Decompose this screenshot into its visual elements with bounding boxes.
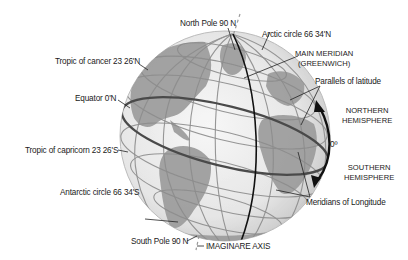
globe-graphic: [0, 0, 408, 260]
northern-hemisphere-line2: HEMISPHERE: [342, 116, 392, 126]
main-meridian-label-line1: MAIN MERIDIAN: [295, 49, 353, 59]
south-pole-label: South Pole 90 N: [131, 238, 188, 246]
antarctic-circle-label: Antarctic circle 66 34'S: [60, 189, 139, 197]
southern-hemisphere-label: SOUTHERN HEMISPHERE: [344, 163, 394, 183]
tropic-of-capricorn-label: Tropic of capricorn 23 26'S: [25, 147, 118, 155]
tropic-of-cancer-label: Tropic of cancer 23 26'N: [55, 58, 140, 66]
zero-degree-label: 0º: [330, 141, 337, 149]
globe-diagram: North Pole 90 N Arctic circle 66 34'N MA…: [0, 0, 408, 260]
north-pole-label: North Pole 90 N: [180, 20, 236, 28]
imaginary-axis-label: IMAGINARE AXIS: [206, 243, 270, 251]
parallels-of-latitude-label: Parallels of latitude: [315, 78, 381, 86]
southern-hemisphere-line2: HEMISPHERE: [344, 173, 394, 183]
arctic-circle-label: Arctic circle 66 34'N: [262, 31, 331, 39]
northern-hemisphere-line1: NORTHERN: [342, 106, 392, 116]
main-meridian-label: MAIN MERIDIAN (GREENWICH): [295, 49, 353, 69]
southern-hemisphere-line1: SOUTHERN: [344, 163, 394, 173]
meridians-of-longitude-label: Meridians of Longitude: [306, 199, 386, 207]
main-meridian-label-line2: (GREENWICH): [295, 59, 353, 69]
equator-label: Equator 0'N: [75, 95, 116, 103]
northern-hemisphere-label: NORTHERN HEMISPHERE: [342, 106, 392, 126]
